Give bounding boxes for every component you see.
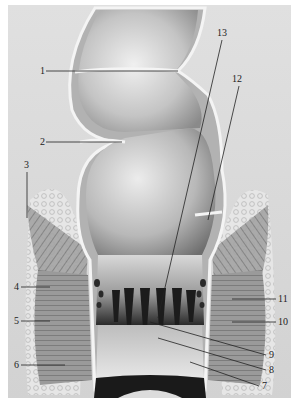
label-4: 4 xyxy=(14,281,19,292)
label-7: 7 xyxy=(262,380,267,391)
label-12: 12 xyxy=(232,73,242,84)
label-13: 13 xyxy=(217,27,227,38)
label-2: 2 xyxy=(40,136,45,147)
label-3: 3 xyxy=(24,159,29,170)
anatomical-figure: 1 2 3 4 5 6 7 8 9 10 11 12 13 xyxy=(0,0,299,410)
label-11: 11 xyxy=(278,293,288,304)
right-external-sphincter xyxy=(208,270,266,385)
label-1: 1 xyxy=(40,65,45,76)
label-10: 10 xyxy=(278,316,288,327)
label-6: 6 xyxy=(14,359,19,370)
rectum-section-illustration: 1 2 3 4 5 6 7 8 9 10 11 12 13 xyxy=(0,0,299,410)
label-9: 9 xyxy=(269,349,274,360)
label-8: 8 xyxy=(269,364,274,375)
label-5: 5 xyxy=(14,315,19,326)
